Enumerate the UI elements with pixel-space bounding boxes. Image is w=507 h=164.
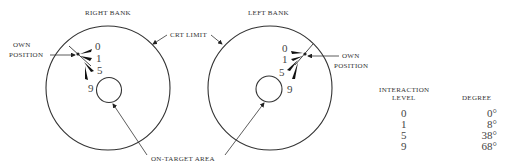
- table-header-degree: DEGREE: [462, 94, 491, 102]
- crt-limit-circle-right: [46, 26, 170, 150]
- on-target-arrow-left-bank: [225, 103, 264, 155]
- interaction-arrows-right: [80, 49, 94, 80]
- level-9-label-left: 9: [287, 83, 293, 95]
- own-position-label-right-2: POSITION: [9, 51, 43, 59]
- table-header-level-line1: INTERACTION: [379, 86, 429, 94]
- on-target-label: ON-TARGET AREA: [151, 155, 215, 163]
- crt-limit-arrow-left-bank: [211, 35, 222, 44]
- crt-limit-circle-left: [208, 26, 332, 150]
- table-row-level: 9: [401, 140, 407, 152]
- own-position-dot-right: [76, 52, 79, 55]
- own-position-label-right-1: OWN: [13, 41, 31, 49]
- on-target-circle-left: [256, 76, 282, 102]
- bank-diagram-figure: RIGHT BANK OWN POSITION 0 1 5 9 CRT LIMI…: [0, 0, 507, 164]
- level-5-label-left: 5: [279, 66, 285, 78]
- crt-limit-arrow-right-bank: [153, 35, 167, 44]
- level-5-label-right: 5: [97, 64, 103, 76]
- arrow-level-1-icon: [80, 56, 92, 61]
- level-1-label-left: 1: [282, 53, 288, 65]
- arrow-level-0-icon: [291, 51, 303, 54]
- arrow-level-1-icon: [291, 56, 303, 61]
- table-row-degree: 68°: [482, 140, 497, 152]
- crt-limit-label: CRT LIMIT: [170, 31, 207, 39]
- interaction-degree-table: INTERACTION LEVEL DEGREE 0 1 5 9 0° 8° 3…: [379, 86, 497, 152]
- on-target-arrow-right-bank: [113, 104, 147, 155]
- own-position-label-left-2: POSITION: [334, 62, 368, 70]
- arrow-level-9-icon: [85, 66, 88, 80]
- level-1-label-right: 1: [96, 52, 102, 64]
- own-position-dot-left: [303, 52, 306, 55]
- right-bank-title: RIGHT BANK: [85, 9, 131, 17]
- level-9-label-right: 9: [88, 82, 94, 94]
- table-header-level-line2: LEVEL: [392, 94, 416, 102]
- own-position-label-left-1: OWN: [342, 52, 360, 60]
- right-bank-diagram: RIGHT BANK OWN POSITION 0 1 5 9: [9, 9, 170, 150]
- left-bank-diagram: LEFT BANK OWN POSITION 0 1 5 9: [208, 9, 368, 150]
- arrow-level-0-icon: [80, 49, 92, 54]
- crt-limit-annotation: CRT LIMIT: [153, 31, 222, 44]
- level-0-label-right: 0: [95, 40, 101, 52]
- left-bank-title: LEFT BANK: [248, 9, 289, 17]
- on-target-circle-right: [97, 78, 122, 103]
- on-target-annotation: ON-TARGET AREA: [113, 103, 264, 163]
